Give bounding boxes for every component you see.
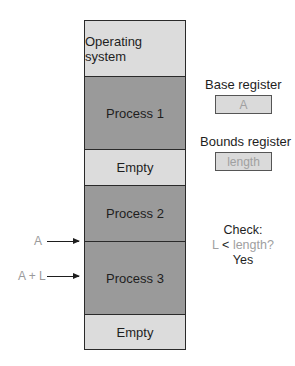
- segment-label: Process 2: [106, 206, 164, 221]
- memory-layout: Operating system Process 1 Empty Process…: [84, 20, 186, 350]
- base-register-value: A: [239, 98, 247, 112]
- segment-label: Empty: [117, 325, 154, 340]
- check-length: length?: [233, 238, 274, 252]
- segment-empty-1: Empty: [85, 149, 185, 185]
- arrow-right-icon: [47, 241, 79, 242]
- bounds-check: Check: L < length? Yes: [205, 223, 281, 268]
- pointer-a-label: A: [34, 234, 42, 248]
- segment-process-3: Process 3: [85, 241, 185, 314]
- bounds-register-label: Bounds register: [200, 134, 286, 149]
- bounds-register-value: length: [227, 155, 260, 169]
- segment-empty-2: Empty: [85, 314, 185, 349]
- bounds-register-box: length: [215, 152, 272, 171]
- base-register-label: Base register: [205, 77, 281, 92]
- segment-label: Process 1: [106, 106, 164, 121]
- check-operator: <: [222, 238, 229, 252]
- arrow-right-icon: [47, 276, 79, 277]
- check-title: Check:: [205, 223, 281, 238]
- segment-label: Empty: [117, 160, 154, 175]
- segment-label: Operating system: [85, 34, 185, 64]
- check-result: Yes: [205, 253, 281, 268]
- segment-process-2: Process 2: [85, 185, 185, 241]
- segment-process-1: Process 1: [85, 76, 185, 149]
- check-l: L: [212, 238, 219, 252]
- pointer-a-plus-l-label: A + L: [18, 269, 46, 283]
- segment-label: Process 3: [106, 271, 164, 286]
- segment-operating-system: Operating system: [85, 21, 185, 76]
- check-expression: L < length?: [205, 238, 281, 253]
- base-register-box: A: [215, 95, 272, 114]
